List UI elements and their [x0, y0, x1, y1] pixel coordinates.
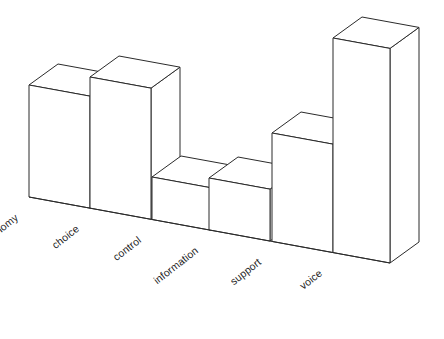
- axis-tick-label-control: control: [110, 234, 143, 263]
- axis-tick-label-information: information: [151, 244, 200, 286]
- axis-tick-label-autonomy: autonomy: [0, 211, 21, 250]
- axis-tick-label-voice: voice: [297, 267, 324, 292]
- bar-front-face: [333, 38, 390, 263]
- bar-voice: [333, 17, 419, 263]
- bar-side-face: [390, 27, 419, 263]
- axis-tick-label-support: support: [228, 256, 264, 287]
- axis-tick-label-choice: choice: [49, 222, 81, 251]
- chart-canvas: autonomychoicecontrolinformationsupportv…: [0, 0, 444, 339]
- bar-front-face: [29, 85, 90, 208]
- bar-front-face: [272, 133, 333, 253]
- bar-front-face: [90, 77, 151, 219]
- bars-layer: [29, 17, 419, 263]
- bar-chart-3d: autonomychoicecontrolinformationsupportv…: [0, 0, 444, 339]
